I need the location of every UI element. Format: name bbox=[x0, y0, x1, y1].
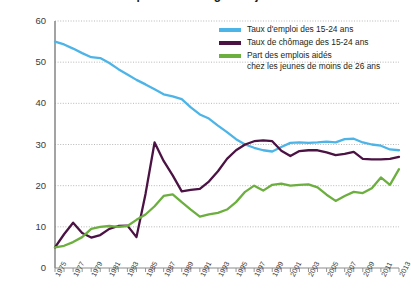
chart-legend: Taux d'emploi des 15-24 ansTaux de chôma… bbox=[219, 24, 409, 74]
y-axis-tick-label: 30 bbox=[22, 139, 46, 150]
legend-label: Taux d'emploi des 15-24 ans bbox=[247, 24, 353, 35]
legend-item-0: Taux d'emploi des 15-24 ans bbox=[219, 24, 409, 35]
legend-label-line1: Part des emplois aidés bbox=[247, 50, 332, 60]
legend-label: Taux de chômage des 15-24 ans bbox=[247, 37, 369, 48]
legend-label-line1: Taux de chômage des 15-24 ans bbox=[247, 37, 369, 47]
legend-label: Part des emplois aidéschez les jeunes de… bbox=[247, 50, 380, 71]
y-axis-tick-label: 0 bbox=[22, 262, 46, 273]
y-axis-tick-label: 60 bbox=[22, 15, 46, 26]
legend-label-line1: Taux d'emploi des 15-24 ans bbox=[247, 24, 353, 34]
y-axis-tick-label: 10 bbox=[22, 221, 46, 232]
legend-swatch bbox=[219, 54, 241, 58]
y-axis-tick-label: 50 bbox=[22, 56, 46, 67]
legend-swatch bbox=[219, 41, 241, 45]
legend-item-1: Taux de chômage des 15-24 ans bbox=[219, 37, 409, 48]
series-line-2 bbox=[55, 169, 399, 247]
legend-label-line2: chez les jeunes de moins de 26 ans bbox=[247, 61, 380, 72]
y-axis-tick-label: 40 bbox=[22, 97, 46, 108]
legend-swatch bbox=[219, 28, 241, 32]
chart-container: Emploi et chômage des jeunes 01020304050… bbox=[0, 0, 411, 295]
legend-item-2: Part des emplois aidéschez les jeunes de… bbox=[219, 50, 409, 71]
y-axis-tick-label: 20 bbox=[22, 180, 46, 191]
